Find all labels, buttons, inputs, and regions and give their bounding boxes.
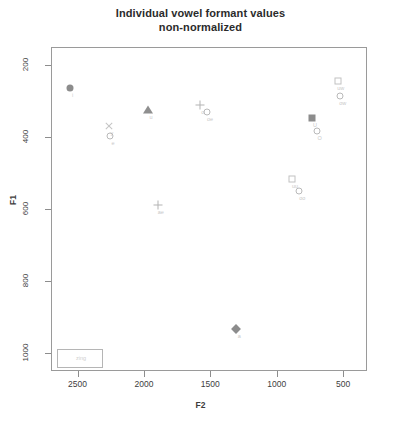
x-axis-tick-label: 2500: [54, 379, 102, 389]
data-point: [336, 92, 343, 99]
y-axis-tick: [45, 209, 51, 210]
x-axis-tick: [144, 371, 145, 377]
data-point-label: oo: [299, 195, 305, 201]
chart-container: Individual vowel formant values non-norm…: [0, 0, 401, 422]
data-point: [334, 78, 341, 85]
x-axis-tick-label: 500: [319, 379, 367, 389]
chart-title-line-1: Individual vowel formant values: [0, 6, 401, 20]
legend-label: zing: [58, 355, 104, 361]
y-axis-tick: [45, 353, 51, 354]
x-axis-tick: [78, 371, 79, 377]
y-axis-tick-label: 400: [8, 132, 42, 142]
y-axis-tick-label: 200: [8, 60, 42, 70]
chart-title-line-2: non-normalized: [0, 20, 401, 34]
y-axis-tick: [45, 137, 51, 138]
data-point: [308, 114, 315, 121]
y-axis-tick: [45, 65, 51, 66]
data-point-label: ae: [158, 209, 164, 215]
y-axis-tick: [45, 281, 51, 282]
x-axis-tick-label: 1000: [253, 379, 301, 389]
data-point-label: oe: [207, 116, 213, 122]
data-point-label: a: [238, 333, 241, 339]
data-point-label: i: [72, 92, 73, 98]
x-axis-tick-label: 1500: [186, 379, 234, 389]
data-point-label: ow: [339, 100, 346, 106]
x-axis-title: F2: [0, 400, 401, 410]
data-point-label: O: [317, 135, 321, 141]
data-point: [313, 127, 320, 134]
data-point: [204, 108, 211, 115]
data-point-label: u: [149, 114, 152, 120]
data-point: [107, 132, 114, 139]
data-point: [66, 84, 73, 91]
y-axis-tick-label: 1000: [8, 348, 42, 358]
x-axis-tick: [210, 371, 211, 377]
x-axis-tick: [277, 371, 278, 377]
data-point-label: uw: [337, 85, 344, 91]
chart-title: Individual vowel formant values non-norm…: [0, 6, 401, 34]
y-axis-tick-label: 600: [8, 204, 42, 214]
legend: zing: [57, 349, 103, 368]
plot-area: [51, 47, 367, 371]
data-point: [296, 188, 303, 195]
x-axis-tick: [343, 371, 344, 377]
data-point: [143, 106, 153, 114]
y-axis-tick-label: 800: [8, 276, 42, 286]
x-axis-tick-label: 2000: [120, 379, 168, 389]
data-point: [288, 176, 295, 183]
data-point-label: e: [112, 140, 115, 146]
